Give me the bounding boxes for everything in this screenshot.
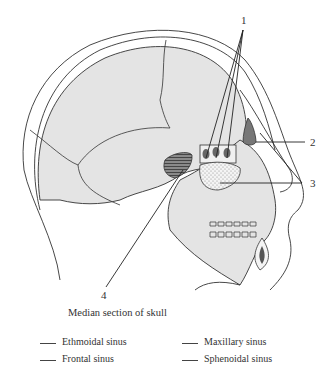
answer-blank[interactable]: [182, 360, 198, 361]
callout-4: 4: [101, 289, 107, 301]
legend-label: Frontal sinus: [62, 353, 114, 364]
legend-label: Maxillary sinus: [204, 336, 267, 347]
legend-item-ethmoidal: Ethmoidal sinus: [40, 336, 127, 347]
legend-label: Sphenoidal sinus: [204, 353, 272, 364]
legend-label: Ethmoidal sinus: [62, 336, 127, 347]
figure-caption: Median section of skull: [68, 307, 167, 318]
skull-median-section-illustration: [0, 0, 335, 300]
answer-blank[interactable]: [40, 360, 56, 361]
answer-blank[interactable]: [182, 343, 198, 344]
answer-blank[interactable]: [40, 343, 56, 344]
legend-item-frontal: Frontal sinus: [40, 353, 114, 364]
legend-item-maxillary: Maxillary sinus: [182, 336, 267, 347]
callout-3: 3: [310, 177, 316, 189]
legend-item-sphenoidal: Sphenoidal sinus: [182, 353, 272, 364]
callout-2: 2: [310, 136, 316, 148]
callout-1: 1: [241, 14, 247, 26]
